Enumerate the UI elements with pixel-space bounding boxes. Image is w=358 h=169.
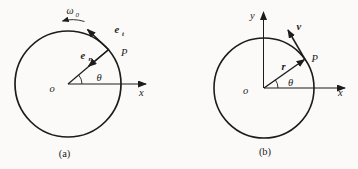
caption-b: (b) (259, 146, 272, 158)
theta-label-a: θ (97, 72, 102, 83)
circular-motion-figure: ω 0 e t P e n θ o x (a) (0, 0, 358, 169)
omega-subscript: 0 (76, 11, 80, 19)
diagram-a: ω 0 e t P e n θ o x (a) (15, 5, 146, 160)
caption-a: (a) (59, 148, 71, 160)
y-axis-label-b: y (249, 10, 255, 21)
x-axis-label-b: x (337, 87, 343, 98)
tangent-vector-arrow (88, 30, 110, 51)
theta-label-b: θ (288, 77, 293, 88)
tangent-vector-label: e (115, 24, 120, 35)
rotation-direction-arrow (63, 20, 85, 22)
velocity-vector-label: v (297, 21, 302, 32)
figure-svg: ω 0 e t P e n θ o x (a) (0, 0, 358, 169)
point-p-label-b: P (311, 53, 319, 64)
normal-vector-subscript: n (89, 55, 93, 63)
theta-arc-b (275, 80, 278, 88)
tangent-vector-subscript: t (122, 30, 125, 38)
x-axis-label-a: x (138, 87, 144, 98)
normal-vector-label: e (81, 50, 86, 61)
origin-label-a: o (50, 83, 55, 94)
omega-label: ω (67, 5, 74, 16)
diagram-b: y v P r θ o x (b) (214, 10, 345, 158)
velocity-vector-arrow (288, 30, 305, 59)
origin-label-b: o (243, 85, 248, 96)
position-vector-label: r (282, 61, 287, 72)
point-p-label-a: P (120, 47, 128, 58)
theta-arc-a (79, 75, 82, 84)
